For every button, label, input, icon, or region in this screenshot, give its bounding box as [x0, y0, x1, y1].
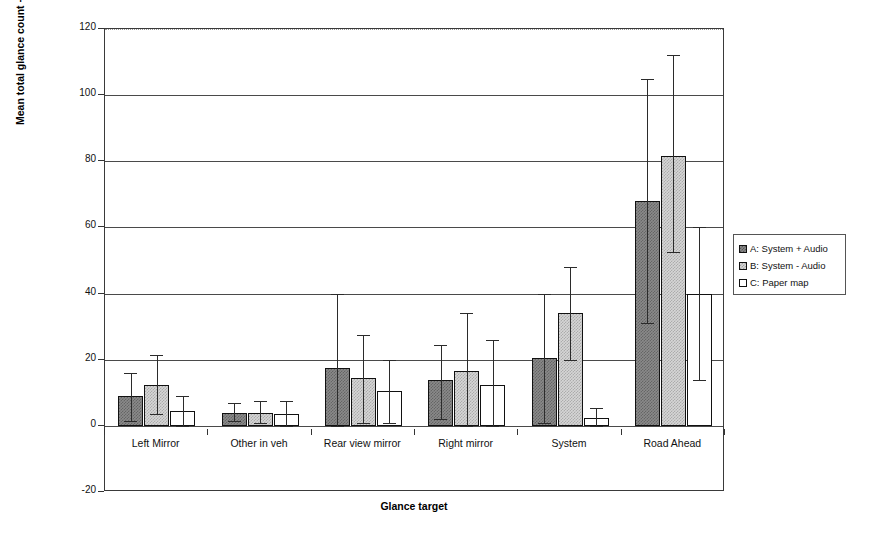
error-bar-cap-bottom	[176, 426, 189, 427]
error-bar-cap-top	[176, 396, 189, 397]
error-bar	[260, 401, 261, 422]
x-axis-title: Glance target	[104, 500, 724, 512]
x-axis-category-label: Right mirror	[414, 437, 517, 449]
x-axis-category-label: System	[517, 437, 620, 449]
error-bar	[337, 294, 338, 426]
error-bar-cap-top	[150, 355, 163, 356]
gridline	[105, 294, 723, 295]
error-bar-cap-top	[280, 401, 293, 402]
error-bar	[596, 408, 597, 426]
error-bar-cap-bottom	[150, 414, 163, 415]
x-axis-category-label: Rear view mirror	[311, 437, 414, 449]
error-bar-cap-bottom	[486, 426, 499, 427]
error-bar	[389, 360, 390, 423]
error-bar-cap-top	[124, 373, 137, 374]
error-bar-cap-bottom	[667, 252, 680, 253]
error-bar-cap-bottom	[383, 423, 396, 424]
error-bar-cap-top	[564, 267, 577, 268]
error-bar-cap-bottom	[124, 421, 137, 422]
error-bar-cap-bottom	[641, 323, 654, 324]
error-bar	[673, 55, 674, 252]
error-bar-cap-top	[486, 340, 499, 341]
error-bar-cap-top	[228, 403, 241, 404]
y-axis-tick-mark	[98, 491, 104, 492]
error-bar-cap-bottom	[434, 419, 447, 420]
gridline	[105, 227, 723, 228]
legend-item-b: B: System - Audio	[739, 257, 841, 274]
error-bar	[467, 313, 468, 425]
error-bar	[647, 79, 648, 324]
error-bar-cap-top	[331, 294, 344, 295]
error-bar-cap-top	[693, 227, 706, 228]
y-axis-tick-label: 80	[56, 154, 96, 164]
legend-item-a: A: System + Audio	[739, 240, 841, 257]
legend-swatch-b-icon	[739, 262, 747, 270]
error-bar-cap-bottom	[228, 421, 241, 422]
gridline	[105, 161, 723, 162]
error-bar-cap-top	[434, 345, 447, 346]
error-bar-cap-top	[538, 294, 551, 295]
error-bar	[183, 396, 184, 426]
error-bar	[441, 345, 442, 419]
gridline	[105, 360, 723, 361]
legend-label-c: C: Paper map	[750, 277, 809, 288]
error-bar-cap-bottom	[460, 426, 473, 427]
error-bar	[544, 294, 545, 423]
x-axis-category-label: Other in veh	[207, 437, 310, 449]
x-axis-tick-mark	[621, 429, 622, 435]
gridline	[105, 29, 723, 30]
gridline	[105, 95, 723, 96]
x-axis-tick-mark	[724, 429, 725, 435]
error-bar	[699, 227, 700, 379]
error-bar-cap-bottom	[254, 423, 267, 424]
y-axis-tick-label: 100	[56, 88, 96, 98]
error-bar-cap-top	[667, 55, 680, 56]
y-axis-tick-label: 0	[56, 419, 96, 429]
error-bar-cap-bottom	[280, 426, 293, 427]
legend-label-b: B: System - Audio	[750, 260, 826, 271]
x-axis-tick-mark	[517, 429, 518, 435]
y-axis-tick-label: -20	[56, 485, 96, 495]
error-bar	[570, 267, 571, 360]
y-axis-tick-label: 60	[56, 220, 96, 230]
legend-swatch-c-icon	[739, 279, 747, 287]
y-axis-title: Mean total glance count +/- 1 s.d.	[14, 0, 26, 125]
x-axis-category-label: Left Mirror	[104, 437, 207, 449]
error-bar-cap-top	[254, 401, 267, 402]
y-axis-tick-label: 20	[56, 353, 96, 363]
y-axis-tick-label: 40	[56, 287, 96, 297]
x-axis-category-label: Road Ahead	[621, 437, 724, 449]
error-bar-cap-top	[641, 79, 654, 80]
error-bar	[286, 401, 287, 426]
error-bar	[363, 335, 364, 423]
error-bar-cap-top	[357, 335, 370, 336]
error-bar-cap-top	[460, 313, 473, 314]
x-axis-tick-mark	[207, 429, 208, 435]
error-bar-cap-bottom	[331, 426, 344, 427]
error-bar	[131, 373, 132, 421]
x-axis-tick-mark	[414, 429, 415, 435]
plot-area	[104, 28, 724, 491]
x-axis-tick-mark	[104, 429, 105, 435]
error-bar-cap-bottom	[564, 360, 577, 361]
legend-swatch-a-icon	[739, 245, 747, 253]
error-bar	[234, 403, 235, 421]
error-bar-cap-bottom	[590, 426, 603, 427]
error-bar-cap-bottom	[693, 380, 706, 381]
error-bar-cap-top	[590, 408, 603, 409]
error-bar-cap-top	[383, 360, 396, 361]
gridline	[105, 426, 723, 427]
legend: A: System + Audio B: System - Audio C: P…	[733, 234, 846, 295]
error-bar	[157, 355, 158, 415]
error-bar-cap-bottom	[357, 423, 370, 424]
x-axis-tick-mark	[311, 429, 312, 435]
y-axis-tick-label: 120	[56, 22, 96, 32]
error-bar-cap-bottom	[538, 423, 551, 424]
legend-label-a: A: System + Audio	[750, 243, 828, 254]
bar-chart: Mean total glance count +/- 1 s.d. 12010…	[0, 0, 887, 537]
error-bar	[493, 340, 494, 426]
legend-item-c: C: Paper map	[739, 274, 841, 291]
